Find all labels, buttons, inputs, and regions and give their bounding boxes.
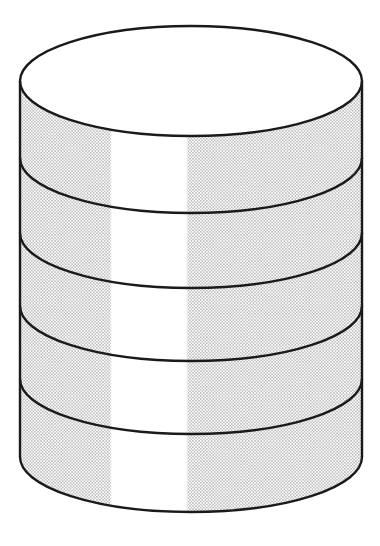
stacked-cylinder-illustration bbox=[0, 0, 380, 546]
figure-root: Stacked cylinder (disc stack) line drawi… bbox=[0, 0, 380, 546]
disc-5-shading bbox=[20, 361, 362, 516]
